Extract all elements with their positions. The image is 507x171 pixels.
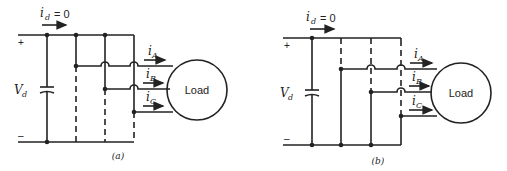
caption-b: (b) [372,156,385,166]
svg-text:i: i [306,10,310,24]
inverter-zero-vector-diagram: i d = 0 + – V d [0,0,507,171]
load-label: Load [185,84,209,96]
dc-capacitor [40,35,54,142]
phase-a-wire [76,62,173,66]
caption-a: (a) [112,151,125,161]
minus-sign: – [284,133,290,144]
svg-text:A: A [151,51,158,60]
minus-sign: – [18,130,24,141]
load-label: Load [449,87,473,99]
svg-text:C: C [416,101,422,110]
svg-text:C: C [150,97,156,106]
phase-currents: i A i B i C [143,44,165,106]
svg-text:= 0: = 0 [320,12,336,24]
plus-sign: + [18,37,24,48]
svg-text:A: A [417,54,424,63]
svg-text:d: d [22,90,27,99]
panel-b: i d = 0 + – V d [280,10,491,166]
svg-text:d: d [311,17,316,26]
svg-text:i: i [40,6,44,20]
svg-text:d: d [288,93,293,102]
svg-text:B: B [149,74,156,83]
phase-currents: i A i B i C [409,47,432,110]
plus-sign: + [284,40,290,51]
panel-a: i d = 0 + – V d [14,6,227,161]
svg-text:d: d [45,13,50,22]
phase-a-wire [341,65,437,69]
phase-b-wire [105,85,170,89]
svg-text:= 0: = 0 [54,8,70,20]
dc-capacitor [305,38,319,145]
dc-current-label: i d = 0 [40,6,70,25]
svg-text:B: B [415,77,422,86]
dc-current-label: i d = 0 [306,10,336,29]
